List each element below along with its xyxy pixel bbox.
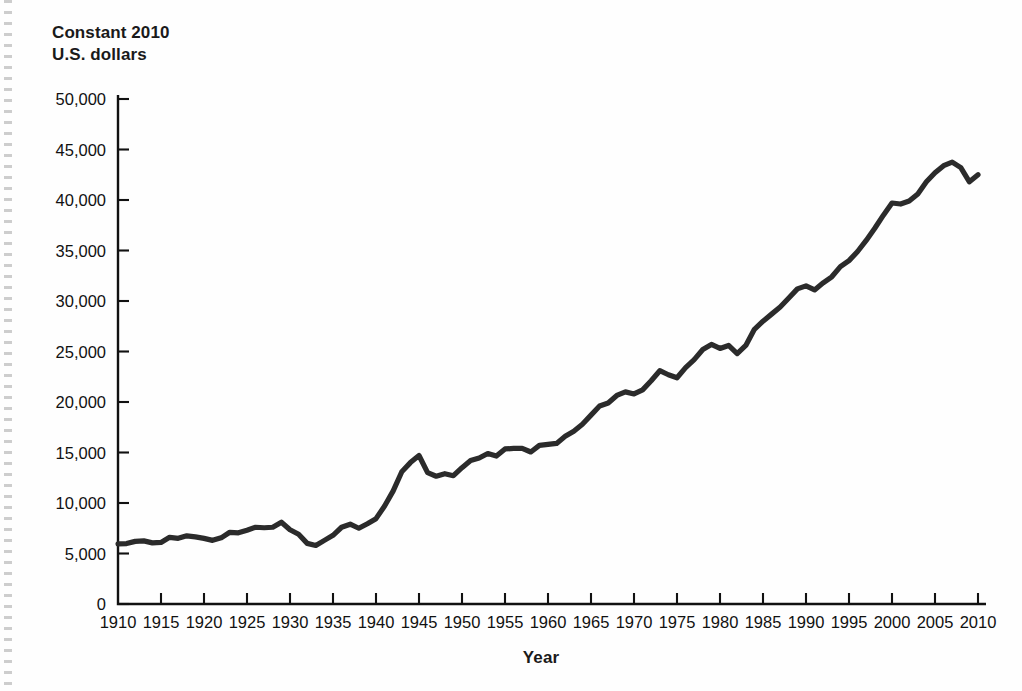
y-tick-label: 0 — [97, 595, 106, 613]
y-tick-label: 5,000 — [65, 545, 106, 563]
x-axis-tick-group: 1910191519201925193019351940194519501955… — [100, 593, 997, 631]
x-tick-label: 1940 — [358, 613, 395, 631]
x-tick-label: 1910 — [100, 613, 137, 631]
x-tick-label: 1960 — [530, 613, 567, 631]
x-axis-title-label: Year — [523, 648, 560, 667]
y-tick-label: 35,000 — [56, 242, 106, 260]
x-tick-label: 1935 — [315, 613, 352, 631]
x-axis-title: Year — [0, 648, 1022, 668]
y-tick-label: 45,000 — [56, 141, 106, 159]
x-tick-label: 1950 — [444, 613, 481, 631]
x-tick-label: 1930 — [272, 613, 309, 631]
x-tick-label: 1965 — [573, 613, 610, 631]
y-tick-label: 20,000 — [56, 393, 106, 411]
x-tick-label: 1955 — [487, 613, 524, 631]
x-tick-label: 1925 — [229, 613, 266, 631]
x-tick-label: 1920 — [186, 613, 223, 631]
x-tick-label: 2005 — [917, 613, 954, 631]
x-tick-label: 1915 — [143, 613, 180, 631]
x-tick-label: 1990 — [788, 613, 825, 631]
y-tick-label: 15,000 — [56, 444, 106, 462]
y-tick-label: 50,000 — [56, 90, 106, 108]
y-tick-label: 40,000 — [56, 191, 106, 209]
x-tick-label: 1985 — [745, 613, 782, 631]
data-series-line — [118, 162, 978, 545]
x-tick-label: 1945 — [401, 613, 438, 631]
chart-figure: Constant 2010 U.S. dollars 05,00010,0001… — [0, 0, 1022, 691]
y-tick-label: 25,000 — [56, 343, 106, 361]
line-chart-plot: 05,00010,00015,00020,00025,00030,00035,0… — [0, 0, 1022, 691]
x-tick-label: 2000 — [874, 613, 911, 631]
x-tick-label: 1980 — [702, 613, 739, 631]
y-tick-label: 30,000 — [56, 292, 106, 310]
x-tick-label: 1975 — [659, 613, 696, 631]
x-tick-label: 1970 — [616, 613, 653, 631]
x-tick-label: 2010 — [960, 613, 997, 631]
y-tick-label: 10,000 — [56, 494, 106, 512]
x-tick-label: 1995 — [831, 613, 868, 631]
